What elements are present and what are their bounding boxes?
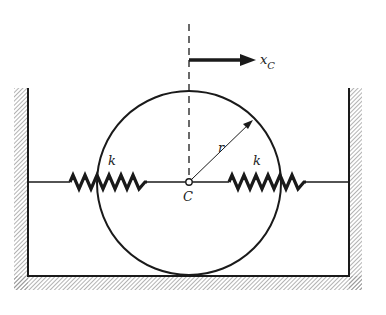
disk-spring-diagram: xC k k r C xyxy=(0,0,386,315)
radius-label: r xyxy=(218,140,225,155)
spring-left-label: k xyxy=(108,153,116,168)
displacement-arrow xyxy=(189,54,256,66)
spring-right xyxy=(192,175,349,189)
center-label: C xyxy=(183,189,193,204)
center-point xyxy=(186,179,192,185)
displacement-label: xC xyxy=(260,52,275,71)
spring-right-label: k xyxy=(253,153,261,168)
spring-left xyxy=(28,175,186,189)
